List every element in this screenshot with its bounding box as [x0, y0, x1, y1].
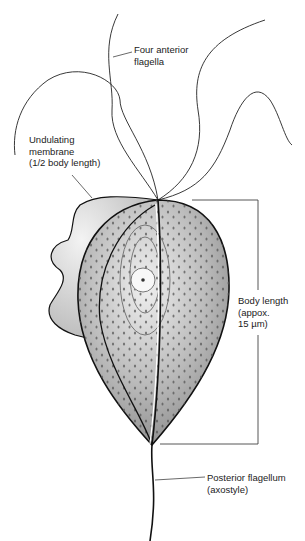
label-line: 15 µm): [238, 318, 288, 330]
label-undulating-membrane: Undulating membrane (1/2 body length): [29, 134, 100, 169]
label-posterior-flagellum: Posterior flagellum (axostyle): [207, 472, 286, 495]
label-line: Four anterior: [134, 44, 188, 56]
membrane-leader: [72, 175, 92, 198]
label-line: Undulating: [29, 134, 100, 146]
anterior-flagella-leader: [113, 52, 132, 57]
anterior-flagella: [14, 14, 292, 200]
label-line: Posterior flagellum: [207, 472, 286, 484]
label-line: flagella: [134, 56, 188, 68]
label-anterior-flagella: Four anterior flagella: [134, 44, 188, 67]
label-line: Body length: [238, 295, 288, 307]
label-line: (1/2 body length): [29, 157, 100, 169]
label-line: (axostyle): [207, 484, 286, 496]
posterior-flagellum-leader: [155, 477, 205, 480]
trichomonas-diagram: [0, 0, 305, 541]
label-line: (appox.: [238, 307, 288, 319]
label-body-length: Body length (appox. 15 µm): [238, 295, 288, 330]
label-line: membrane: [29, 146, 100, 158]
